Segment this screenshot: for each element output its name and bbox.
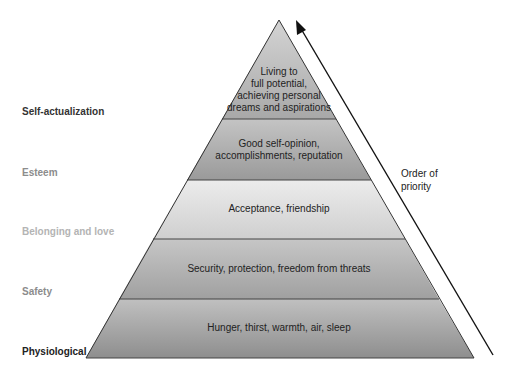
tier-text-belonging: Acceptance, friendship <box>179 203 379 215</box>
level-label-physiological: Physiological <box>22 346 86 357</box>
tier-text-safety: Security, protection, freedom from threa… <box>154 263 404 275</box>
level-label-esteem: Esteem <box>22 167 58 178</box>
tier-text-self-actualization: Living to full potential, achieving pers… <box>219 66 339 114</box>
level-label-belonging: Belonging and love <box>22 226 114 237</box>
arrow-up-icon <box>296 20 306 35</box>
priority-label: Order of priority <box>401 167 438 193</box>
tier-text-physiological: Hunger, thirst, warmth, air, sleep <box>154 322 404 334</box>
level-label-self-actualization: Self-actualization <box>22 106 104 117</box>
tier-text-esteem: Good self-opinion, accomplishments, repu… <box>199 138 359 162</box>
level-label-safety: Safety <box>22 286 52 297</box>
